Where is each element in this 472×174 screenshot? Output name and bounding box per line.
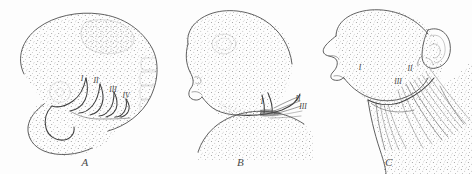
fetal-head-mass-b xyxy=(185,11,292,120)
svg-text:I: I xyxy=(260,97,264,106)
svg-text:III: III xyxy=(108,85,117,94)
panel-letter-c: C xyxy=(306,156,472,168)
panel-letter-a: A xyxy=(0,156,170,168)
svg-text:II: II xyxy=(407,64,413,73)
svg-text:I: I xyxy=(358,63,362,72)
svg-text:I: I xyxy=(80,74,84,83)
embryology-figure: I II III IV A xyxy=(0,0,472,174)
svg-text:II: II xyxy=(93,76,99,85)
panel-a: I II III IV A xyxy=(0,0,170,174)
panel-letter-b: B xyxy=(168,156,313,168)
panel-b: I II III B xyxy=(168,0,313,174)
svg-text:III: III xyxy=(393,77,402,86)
svg-text:IV: IV xyxy=(121,91,130,100)
neck-chest-mass-b xyxy=(198,111,313,160)
panel-c: I II III C xyxy=(306,0,472,174)
